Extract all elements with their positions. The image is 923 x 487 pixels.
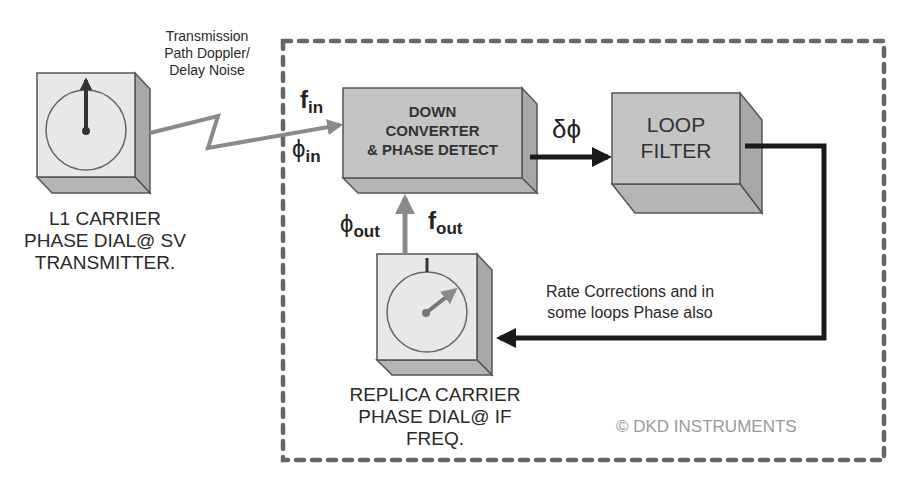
transmitter-dial-block [37, 73, 150, 193]
down-converter-label: DOWN CONVERTER & PHASE DETECT [343, 103, 522, 159]
phase-error-label: δϕ [552, 114, 581, 145]
feedback-label: Rate Corrections and in some loops Phase… [515, 282, 745, 324]
input-phase-label: ϕin [292, 135, 321, 167]
output-phase-label: ϕout [340, 210, 380, 242]
transmitter-caption: L1 CARRIER PHASE DIAL@ SV TRANSMITTER. [10, 208, 200, 274]
loop-filter-label: LOOP FILTER [612, 112, 740, 165]
noise-label: Transmission Path Doppler/ Delay Noise [148, 28, 266, 78]
replica-dial-block [377, 254, 492, 375]
output-frequency-label: fout [428, 207, 462, 239]
replica-caption: REPLICA CARRIER PHASE DIAL@ IF FREQ. [330, 384, 540, 450]
input-frequency-label: fin [300, 86, 323, 118]
copyright-label: © DKD INSTRUMENTS [616, 417, 846, 437]
